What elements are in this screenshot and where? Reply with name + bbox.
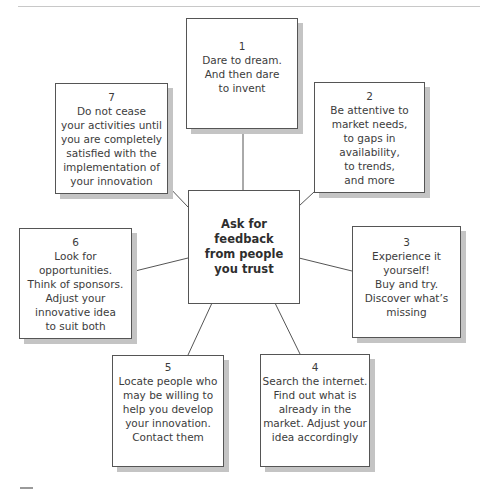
step-text-line: availability, <box>339 145 399 159</box>
step-text-line: Dare to dream. <box>202 53 282 67</box>
step-number: 5 <box>165 360 172 374</box>
step-number: 3 <box>403 235 410 249</box>
step-text-line: to gaps in <box>343 131 395 145</box>
step-box-2: 2 Be attentive to market needs, to gaps … <box>314 82 425 193</box>
hub-text-line: from people <box>205 247 283 262</box>
step-text-line: Think of sponsors. <box>28 277 124 291</box>
step-text-line: implementation of <box>63 160 160 174</box>
connector-3 <box>299 258 352 271</box>
step-text-line: your activities until <box>61 118 162 132</box>
step-text-line: to suit both <box>45 319 105 333</box>
hub-text-line: you trust <box>214 262 273 277</box>
step-text-line: Locate people who <box>119 374 218 388</box>
step-text-line: Be attentive to <box>330 103 408 117</box>
step-text-line: to trends, <box>344 159 395 173</box>
step-text-line: your innovation. <box>125 416 211 430</box>
connector-7 <box>167 185 188 207</box>
step-number: 1 <box>239 39 246 53</box>
center-hub-box: Ask for feedback from people you trust <box>188 190 300 304</box>
step-number: 7 <box>108 90 115 104</box>
step-text-line: already in the <box>279 402 352 416</box>
step-box-7: 7 Do not cease your activities until you… <box>55 83 168 194</box>
connector-2 <box>299 192 314 206</box>
step-number: 4 <box>312 360 319 374</box>
connector-6 <box>131 258 188 272</box>
step-text-line: missing <box>386 305 426 319</box>
step-text-line: market needs, <box>332 117 408 131</box>
step-text-line: Search the internet. <box>263 374 368 388</box>
step-box-4: 4 Search the internet. Find out what is … <box>260 354 370 467</box>
step-text-line: idea accordingly <box>272 430 358 444</box>
step-text-line: and more <box>344 173 394 187</box>
step-text-line: opportunities. <box>39 263 112 277</box>
hub-text-line: Ask for <box>221 217 267 232</box>
step-text-line: may be willing to <box>123 388 213 402</box>
step-text-line: Experience it <box>372 249 441 263</box>
step-text-line: market. Adjust your <box>263 416 367 430</box>
step-text-line: to invent <box>219 81 266 95</box>
step-text-line: yourself! <box>383 263 429 277</box>
step-number: 6 <box>72 235 79 249</box>
connector-4 <box>275 303 300 354</box>
step-number: 2 <box>366 89 373 103</box>
step-box-3: 3 Experience it yourself! Buy and try. D… <box>352 226 461 338</box>
step-text-line: Contact them <box>132 430 204 444</box>
step-text-line: you are completely <box>61 132 162 146</box>
step-text-line: Discover what’s <box>365 291 449 305</box>
step-text-line: innovative idea <box>35 305 116 319</box>
step-text-line: satisfied with the <box>66 146 156 160</box>
step-text-line: And then dare <box>205 67 280 81</box>
step-text-line: your innovation <box>70 174 152 188</box>
step-box-5: 5 Locate people who may be willing to he… <box>112 355 224 467</box>
step-box-1: 1 Dare to dream. And then dare to invent <box>186 18 298 129</box>
step-text-line: Look for <box>54 249 96 263</box>
step-text-line: Find out what is <box>274 388 357 402</box>
step-text-line: Do not cease <box>77 104 146 118</box>
step-text-line: Adjust your <box>46 291 106 305</box>
connector-5 <box>188 303 212 355</box>
step-box-6: 6 Look for opportunities. Think of spons… <box>19 228 132 339</box>
step-text-line: help you develop <box>123 402 213 416</box>
step-text-line: Buy and try. <box>375 277 438 291</box>
hub-text-line: feedback <box>214 232 273 247</box>
